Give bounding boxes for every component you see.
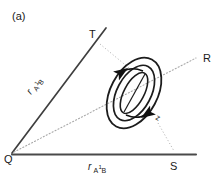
circulation-arrow-upper	[122, 69, 143, 72]
vertex-label-q: Q	[4, 153, 13, 165]
axis-label-diagonal: r A 1 B	[24, 74, 45, 97]
vertex-label-s: S	[170, 160, 177, 172]
axis-label-baseline-sub-b: B	[102, 167, 107, 174]
vertex-label-t: T	[89, 28, 96, 40]
axis-label-baseline: r A 1 B	[88, 161, 107, 174]
connector-ellipse-to-s	[158, 123, 174, 151]
diagram-canvas: (a) Q T R S z r A 1 B r A 1 B	[0, 0, 223, 178]
ellipse-major-axis	[124, 74, 145, 112]
connector-t-to-ellipse	[100, 44, 129, 68]
figure-panel-a: (a) Q T R S z r A 1 B r A 1 B	[0, 0, 223, 178]
panel-label: (a)	[12, 10, 25, 22]
axis-label-baseline-symbol: r	[88, 161, 92, 172]
vertex-label-r: R	[203, 52, 211, 64]
ray-q-to-r-dotted	[14, 58, 196, 152]
ellipse-cluster	[95, 48, 172, 137]
axis-label-z: z	[154, 113, 162, 123]
